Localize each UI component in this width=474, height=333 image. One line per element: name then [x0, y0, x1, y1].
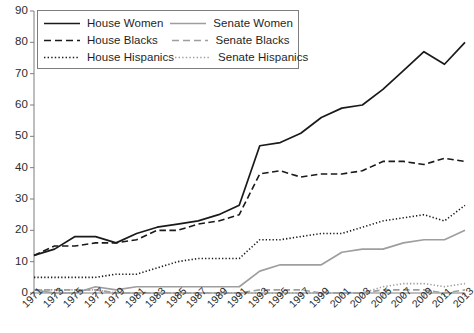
y-axis-tick-label: 30	[2, 193, 28, 205]
legend-label: House Hispanics	[87, 52, 174, 64]
y-axis-tick-label: 20	[2, 224, 28, 236]
y-axis-tick-label: 60	[2, 99, 28, 111]
legend-label: Senate Hispanics	[218, 52, 308, 64]
legend-item-house-blacks: House Blacks	[43, 35, 171, 47]
y-axis-tick-label: 80	[2, 36, 28, 48]
series-line-house-women	[34, 42, 465, 255]
chart-legend: House Women Senate Women House Blacks	[37, 10, 299, 69]
legend-label: Senate Blacks	[215, 35, 289, 47]
y-axis-ticks	[30, 11, 34, 293]
legend-swatch-solid-dark-icon	[43, 19, 81, 28]
legend-item-senate-blacks: Senate Blacks	[171, 35, 293, 47]
legend-swatch-dashed-gray-icon	[171, 36, 209, 45]
legend-label: House Blacks	[87, 35, 158, 47]
legend-label: House Women	[87, 18, 163, 30]
series-line-house-blacks	[34, 158, 465, 255]
legend-label: Senate Women	[213, 18, 293, 30]
legend-swatch-dashed-dark-icon	[43, 36, 81, 45]
legend-swatch-solid-gray-icon	[169, 19, 207, 28]
line-chart: House Women Senate Women House Blacks	[0, 0, 474, 333]
legend-item-house-women: House Women	[43, 18, 169, 30]
y-axis-tick-label: 10	[2, 256, 28, 268]
legend-item-senate-hispanics: Senate Hispanics	[174, 52, 298, 64]
y-axis-tick-label: 90	[2, 5, 28, 17]
y-axis-tick-label: 40	[2, 162, 28, 174]
series-line-house-hispanics	[34, 205, 465, 277]
legend-item-senate-women: Senate Women	[169, 18, 293, 30]
legend-row: House Hispanics Senate Hispanics	[43, 49, 293, 66]
legend-swatch-dotted-gray-icon	[174, 53, 212, 62]
legend-row: House Women Senate Women	[43, 15, 293, 32]
y-axis-tick-label: 50	[2, 130, 28, 142]
legend-item-house-hispanics: House Hispanics	[43, 52, 174, 64]
legend-swatch-dotted-dark-icon	[43, 53, 81, 62]
y-axis-tick-label: 70	[2, 68, 28, 80]
legend-row: House Blacks Senate Blacks	[43, 32, 293, 49]
